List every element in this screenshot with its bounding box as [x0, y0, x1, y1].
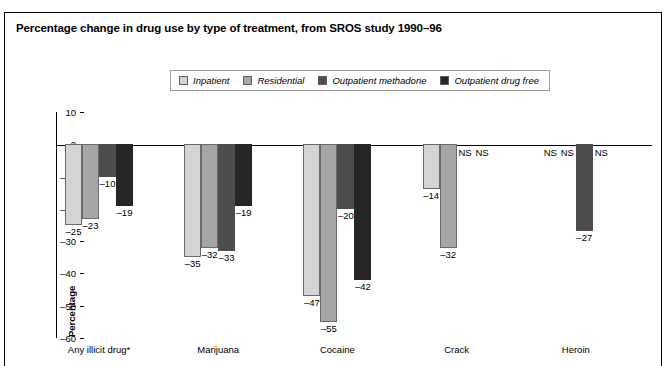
- legend-item: Inpatient: [179, 75, 229, 86]
- y-axis-tick: [80, 112, 84, 113]
- bar-value-label: –55: [321, 323, 337, 334]
- legend-swatch-icon: [440, 76, 449, 85]
- y-axis-tick-label: –30: [48, 236, 76, 247]
- bar: [303, 144, 320, 296]
- y-axis-title: Percentage: [66, 286, 77, 337]
- not-significant-label: NS: [458, 147, 471, 158]
- bar: [116, 144, 133, 205]
- bar: [440, 144, 457, 247]
- bar-value-label: –19: [236, 207, 252, 218]
- legend-item: Outpatient methadone: [318, 75, 426, 86]
- bar: [218, 144, 235, 251]
- bar: [65, 144, 82, 225]
- chart-legend: InpatientResidentialOutpatient methadone…: [170, 70, 550, 91]
- x-axis-categories: Any illicit drug*MarijuanaCocaineCrackHe…: [56, 338, 652, 362]
- page-title: Percentage change in drug use by type of…: [16, 22, 442, 34]
- bar-value-label: –32: [440, 249, 456, 260]
- bar: [320, 144, 337, 322]
- x-axis-category-label: Marijuana: [197, 344, 239, 355]
- legend-swatch-icon: [179, 76, 188, 85]
- figure-panel: Percentage change in drug use by type of…: [0, 0, 666, 366]
- bar-value-label: –19: [117, 207, 133, 218]
- y-axis-tick-label: 10: [48, 107, 76, 118]
- legend-item: Outpatient drug free: [440, 75, 539, 86]
- bar: [235, 144, 252, 205]
- bar: [423, 144, 440, 189]
- bar: [99, 144, 116, 176]
- legend-item: Residential: [243, 75, 304, 86]
- bar-value-label: –32: [202, 249, 218, 260]
- bar-value-label: –35: [185, 258, 201, 269]
- not-significant-label: NS: [475, 147, 488, 158]
- legend-item-label: Inpatient: [193, 75, 229, 86]
- x-axis-category-label: Cocaine: [320, 344, 355, 355]
- legend-swatch-icon: [318, 76, 327, 85]
- legend-swatch-icon: [243, 76, 252, 85]
- legend-item-label: Outpatient drug free: [454, 75, 539, 86]
- bar-value-label: –14: [423, 190, 439, 201]
- bar-value-label: –25: [66, 226, 82, 237]
- bar-value-label: –27: [576, 232, 592, 243]
- bar: [184, 144, 201, 257]
- bar: [354, 144, 371, 280]
- bar: [576, 144, 593, 231]
- bar: [337, 144, 354, 209]
- bar: [82, 144, 99, 218]
- bar-value-label: –23: [83, 220, 99, 231]
- legend-item-label: Outpatient methadone: [332, 75, 426, 86]
- x-axis-category-label: Any illicit drug*: [68, 344, 130, 355]
- legend-item-label: Residential: [257, 75, 304, 86]
- bar: [201, 144, 218, 247]
- bar-value-label: –47: [304, 297, 320, 308]
- not-significant-label: NS: [561, 147, 574, 158]
- x-axis-category-label: Crack: [444, 344, 469, 355]
- y-axis-tick-label: –40: [48, 268, 76, 279]
- x-axis-category-label: Heroin: [562, 344, 590, 355]
- y-axis-tick: [80, 273, 84, 274]
- bar-value-label: –10: [100, 178, 116, 189]
- not-significant-label: NS: [595, 147, 608, 158]
- bar-value-label: –33: [219, 252, 235, 263]
- not-significant-label: NS: [544, 147, 557, 158]
- plot-area: 100–10–20–30–40–50–60 Percentage –25–23–…: [56, 112, 652, 338]
- y-axis-tick: [80, 306, 84, 307]
- y-axis-tick: [80, 241, 84, 242]
- bar-value-label: –20: [338, 210, 354, 221]
- bar-value-label: –42: [355, 281, 371, 292]
